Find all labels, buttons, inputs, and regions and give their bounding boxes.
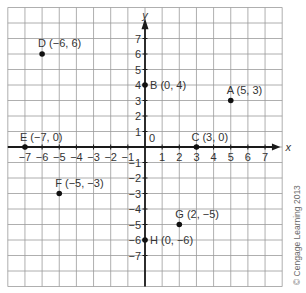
point-marker-icon xyxy=(177,222,183,228)
y-tick-label: 4 xyxy=(135,79,141,91)
y-tick-label: 3 xyxy=(135,95,141,107)
point-label: F (−5, −3) xyxy=(55,177,103,189)
point-h: H (0, −6) xyxy=(142,234,193,246)
x-tick-label: 5 xyxy=(228,151,234,163)
point-label: C (3, 0) xyxy=(191,131,228,143)
point-marker-icon xyxy=(142,237,148,243)
x-tick-label: −5 xyxy=(53,151,66,163)
point-label: A (5, 3) xyxy=(227,84,262,96)
point-marker-icon xyxy=(56,191,62,197)
point-marker-icon xyxy=(142,82,148,88)
x-tick-label: 3 xyxy=(193,151,199,163)
y-tick-label: 2 xyxy=(135,110,141,122)
x-axis-label: x xyxy=(284,141,291,153)
x-tick-label: 6 xyxy=(245,151,251,163)
point-label: D (−6, 6) xyxy=(38,37,81,49)
point-marker-icon xyxy=(39,51,45,57)
y-tick-label: 7 xyxy=(135,33,141,45)
x-tick-label: 2 xyxy=(176,151,182,163)
point-label: H (0, −6) xyxy=(150,234,193,246)
x-tick-label: −4 xyxy=(70,151,83,163)
y-tick-label: −4 xyxy=(128,203,141,215)
y-tick-label: 5 xyxy=(135,64,141,76)
point-marker-icon xyxy=(22,144,28,150)
point-label: G (2, −5) xyxy=(175,208,219,220)
x-tick-label: 1 xyxy=(159,151,165,163)
point-marker-icon xyxy=(228,98,234,104)
y-tick-label: −7 xyxy=(128,250,141,262)
y-tick-label: 1 xyxy=(135,126,141,138)
origin-label: 0 xyxy=(149,132,155,144)
point-label: E (−7, 0) xyxy=(20,131,63,143)
y-tick-label: −3 xyxy=(128,188,141,200)
y-tick-label: 6 xyxy=(135,48,141,60)
coordinate-plane: xy−7−6−5−4−3−2−112345677654321−1−2−3−4−5… xyxy=(0,0,306,293)
y-tick-label: −5 xyxy=(128,219,141,231)
x-tick-label: −7 xyxy=(19,151,32,163)
point-marker-icon xyxy=(194,144,200,150)
y-tick-label: −2 xyxy=(128,172,141,184)
y-tick-label: −1 xyxy=(128,157,141,169)
x-tick-label: −6 xyxy=(36,151,49,163)
x-axis-arrow-icon xyxy=(272,144,281,151)
copyright-notice: © Cengage Learning 2013 xyxy=(292,185,302,285)
x-tick-label: 4 xyxy=(211,151,217,163)
x-tick-label: −2 xyxy=(104,151,117,163)
x-tick-label: 7 xyxy=(262,151,268,163)
y-axis-label: y xyxy=(141,9,149,21)
point-label: B (0, 4) xyxy=(150,79,186,91)
x-tick-label: −3 xyxy=(87,151,100,163)
y-tick-label: −6 xyxy=(128,234,141,246)
